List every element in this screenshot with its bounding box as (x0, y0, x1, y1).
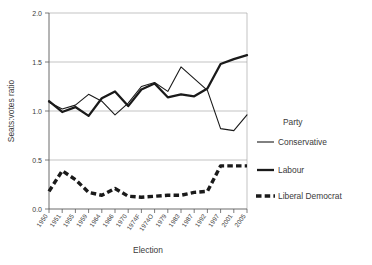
x-tick-label-1987: 1987 (180, 212, 194, 228)
y-axis-tick-labels: 2.0 1.5 1.0 0.5 0.0 (32, 10, 42, 213)
legend: Party Conservative Labour Liberal Democr… (256, 117, 342, 201)
x-tick-label-1950: 1950 (35, 212, 49, 228)
x-tick-label-2001: 2001 (220, 212, 234, 228)
y-tick-label-1.0: 1.0 (32, 108, 42, 115)
y-tick-label-0.5: 0.5 (32, 157, 42, 164)
series-line-liberal-democrat (49, 166, 247, 197)
y-axis-title: Seats:votes ratio (6, 79, 16, 142)
x-tick-label-1992: 1992 (193, 212, 207, 228)
legend-item-conservative[interactable]: Conservative (257, 137, 327, 147)
data-series-group (49, 55, 247, 197)
x-tick-label-1966: 1966 (101, 212, 115, 228)
legend-title: Party (283, 117, 303, 127)
x-tick-label-1959: 1959 (75, 212, 89, 228)
series-line-conservative (49, 67, 247, 131)
x-tick-label-1974O: 1974O (138, 213, 155, 233)
x-tick-label-1983: 1983 (167, 212, 181, 228)
legend-label-conservative: Conservative (278, 137, 327, 147)
x-axis-title: Election (133, 245, 163, 255)
x-tick-label-1979: 1979 (154, 212, 168, 228)
x-tick-label-1951: 1951 (48, 212, 62, 228)
x-tick-label-1955: 1955 (61, 212, 75, 228)
legend-item-labour[interactable]: Labour (257, 165, 304, 175)
y-tick-label-0.0: 0.0 (32, 206, 42, 213)
y-axis-ticks (45, 13, 49, 209)
legend-label-liberal-democrat: Liberal Democrat (278, 191, 342, 201)
seats-votes-ratio-line-chart: 2.0 1.5 1.0 0.5 0.0 19501951195519591964… (0, 0, 372, 265)
y-tick-label-2.0: 2.0 (32, 10, 42, 17)
chart-figure: 2.0 1.5 1.0 0.5 0.0 19501951195519591964… (0, 0, 372, 265)
series-line-labour (49, 55, 247, 116)
legend-item-liberal-democrat[interactable]: Liberal Democrat (256, 191, 342, 201)
x-tick-label-1997: 1997 (207, 212, 221, 228)
y-tick-label-1.5: 1.5 (32, 59, 42, 66)
x-tick-label-1964: 1964 (88, 212, 102, 228)
x-tick-label-2005: 2005 (233, 212, 247, 228)
legend-label-labour: Labour (278, 165, 304, 175)
x-axis-tick-labels: 19501951195519591964196619701974F1974O19… (35, 212, 247, 232)
